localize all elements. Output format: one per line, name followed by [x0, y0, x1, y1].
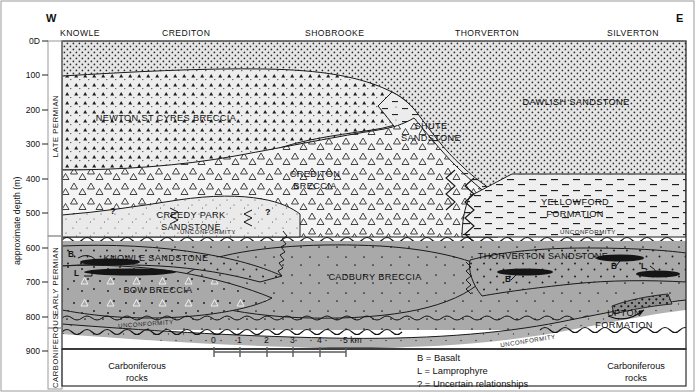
lamprophyre-lens-1 [636, 271, 680, 278]
location-label-thorverton: THORVERTON [455, 28, 519, 38]
depth-tick-400: 400 [8, 174, 40, 184]
unit-label-cadbury-breccia: CADBURY BRECCIA [300, 272, 450, 284]
scale-tick-2: 2 [264, 335, 269, 345]
basement-left-line-1: Carboniferous [62, 360, 212, 372]
depth-tick-100: 100 [8, 70, 40, 80]
legend-item-basalt: B = Basalt [417, 351, 460, 364]
location-label-silverton: SILVERTON [607, 28, 659, 38]
unit-label-upton-formation: UPTON FORMATION [574, 307, 674, 331]
uncertain-marker-2: ? [265, 207, 271, 217]
scale-tick-5-km: 5 km [343, 335, 362, 345]
depth-tick-900: 900 [8, 346, 40, 356]
yellowford-line-1: YELLOWFORD [515, 196, 635, 208]
basalt-marker-1: B [68, 250, 74, 259]
unit-label-dawlish-sandstone: DAWLISH SANDSTONE [486, 97, 666, 109]
scale-tick-4: 4 [317, 335, 322, 345]
crediton-line-1: CREDITON [272, 168, 358, 180]
shute-line-1: SHUTE [398, 120, 464, 132]
unit-label-crediton-breccia: CREDITON BRECCIA [272, 168, 358, 192]
depth-tick-800: 800 [8, 312, 40, 322]
depth-tick-300: 300 [8, 139, 40, 149]
location-label-shobrooke: SHOBROOKE [305, 28, 364, 38]
location-label-knowle: KNOWLE [60, 28, 100, 38]
basement-left-line-2: rocks [62, 372, 212, 384]
basement-label-right: Carboniferous rocks [586, 360, 686, 384]
cross-section-figure: W E KNOWLE CREDITON SHOBROOKE THORVERTON… [0, 0, 695, 392]
basalt-marker-2: B [505, 275, 511, 284]
yellowford-line-2: FORMATION [515, 208, 635, 220]
scale-tick-3: 3 [290, 335, 295, 345]
basement-right-line-1: Carboniferous [586, 360, 686, 372]
section-body [62, 41, 690, 349]
compass-east: E [676, 12, 684, 24]
upton-line-2: FORMATION [574, 319, 674, 331]
period-label-early-permian: EARLY PERMIAN [51, 236, 60, 326]
crediton-line-2: BRECCIA [272, 180, 358, 192]
unit-label-shute-sandstone: SHUTE SANDSTONE [398, 120, 464, 144]
scale-tick-0: 0 [211, 335, 216, 345]
legend-item-lamprophyre: L = Lamprophyre [417, 364, 488, 377]
creedy-line-1: CREEDY PARK [132, 209, 250, 221]
basalt-marker-3: B [611, 262, 617, 271]
unconformity-label-1: UNCONFORMITY [180, 228, 236, 235]
period-label-late-permian: LATE PERMIAN [51, 56, 60, 196]
depth-tick-500: 500 [8, 208, 40, 218]
compass-west: W [46, 12, 57, 24]
legend-item-uncertain: ? = Uncertain relationships [417, 377, 528, 390]
unit-label-yellowford-formation: YELLOWFORD FORMATION [515, 196, 635, 220]
depth-tick-200: 200 [8, 105, 40, 115]
upton-line-1: UPTON [574, 307, 674, 319]
depth-tick-0: 0D [8, 36, 40, 46]
location-label-crediton: CREDITON [162, 28, 210, 38]
unit-label-thorverton-sandstone: THORVERTON SANDSTONE [458, 251, 628, 263]
uncertain-marker-1: ? [110, 206, 116, 216]
scale-tick-1: 1 [237, 335, 242, 345]
shute-line-2: SANDSTONE [398, 132, 464, 144]
unit-label-bow-breccia: BOW BRECCIA [98, 285, 218, 297]
lamprophyre-marker-2: L [641, 262, 646, 271]
basement-label-left: Carboniferous rocks [62, 360, 212, 384]
unit-label-newton-st-cyres-breccia: NEWTON ST CYRES BRECCIA [66, 113, 266, 125]
basement-right-line-2: rocks [586, 372, 686, 384]
depth-tick-600: 600 [8, 243, 40, 253]
unconformity-label-2: UNCONFORMITY [560, 228, 616, 235]
unit-label-knowle-sandstone: KNOWLE SANDSTONE [80, 253, 232, 265]
depth-tick-700: 700 [8, 277, 40, 287]
lamprophyre-marker-1: L [74, 269, 79, 278]
period-label-carboniferous: CARBONIFEROUS [51, 328, 60, 388]
basalt-lens-2 [84, 269, 176, 276]
